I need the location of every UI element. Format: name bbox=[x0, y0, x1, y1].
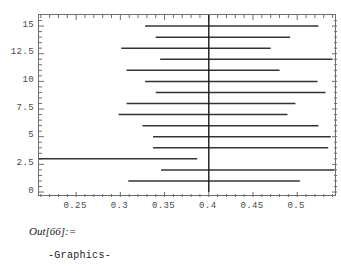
x-tick-label: 0.3 bbox=[99, 202, 139, 211]
interval-lines bbox=[39, 26, 334, 181]
x-tick-label: 0.4 bbox=[188, 202, 228, 211]
x-tick-label: 0.25 bbox=[55, 202, 95, 211]
y-tick-marks bbox=[39, 21, 337, 192]
plot-frame bbox=[38, 14, 336, 196]
y-tick-label: 2.5 bbox=[17, 159, 34, 168]
x-tick-label: 0.35 bbox=[144, 202, 184, 211]
out-value-text: -Graphics- bbox=[48, 250, 111, 261]
out-prompt-label: Out[66]:= bbox=[29, 225, 76, 237]
y-tick-label: 5 bbox=[28, 131, 34, 140]
y-tick-label: 7.5 bbox=[17, 104, 34, 113]
interval-plot bbox=[39, 15, 337, 197]
notebook-output-cell: 02.557.51012.515 0.250.30.350.40.450.5 O… bbox=[0, 0, 341, 273]
y-tick-label: 12.5 bbox=[11, 48, 34, 57]
x-tick-label: 0.45 bbox=[232, 202, 272, 211]
y-tick-label: 15 bbox=[22, 21, 34, 30]
y-tick-label: 10 bbox=[22, 76, 34, 85]
x-tick-label: 0.5 bbox=[276, 202, 316, 211]
y-tick-label: 0 bbox=[28, 187, 34, 196]
